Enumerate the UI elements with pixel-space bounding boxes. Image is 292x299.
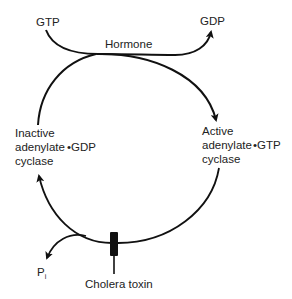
gtp-label: GTP (36, 15, 60, 29)
cholera-toxin-block (110, 232, 118, 256)
hormone-label: Hormone (105, 37, 152, 51)
pi-label: Pi (37, 265, 46, 284)
gdp-label: GDP (200, 14, 225, 28)
inactivation-arrow (39, 176, 112, 243)
pi-release-arrow (47, 235, 86, 258)
pi-label-main: P (37, 266, 45, 278)
cholera-toxin-label: Cholera toxin (85, 277, 153, 291)
inactive-adenylate-cyclase-label: Inactive adenylate cyclase (15, 126, 65, 168)
cycle-arc-left-upper (38, 54, 96, 125)
active-adenylate-cyclase-label: Active adenylate cyclase (202, 124, 252, 166)
inactive-gdp-bound-label: •GDP (67, 140, 96, 154)
cycle-arc-right-lower (118, 168, 219, 243)
active-gtp-bound-label: •GTP (253, 138, 281, 152)
pi-label-subscript: i (45, 273, 47, 280)
activation-arrow (98, 54, 216, 120)
